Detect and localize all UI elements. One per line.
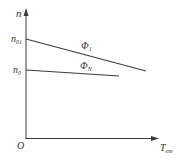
y-tick-n01: n01 (11, 33, 22, 45)
y-tick-n01-sub: 01 (16, 39, 22, 45)
y-axis-label: n (16, 7, 22, 19)
x-axis-label: Tem (160, 142, 173, 154)
x-axis-label-sub: em (166, 148, 174, 154)
y-axis-arrow-icon (24, 8, 29, 16)
y-tick-n0-sub: 0 (18, 70, 21, 76)
x-axis-arrow-icon (151, 136, 159, 141)
speed-torque-diagram: n O Tem n01 n0 Φ1 ΦN (0, 0, 188, 161)
line-phi-1-label: Φ1 (81, 40, 92, 52)
line-phi-1-label-sub: 1 (89, 46, 92, 52)
line-phi-n (26, 70, 119, 76)
line-phi-n-label: ΦN (80, 60, 93, 72)
line-phi-n-label-sub: N (87, 66, 93, 72)
origin-label: O (17, 140, 24, 151)
y-tick-n0: n0 (13, 64, 21, 76)
